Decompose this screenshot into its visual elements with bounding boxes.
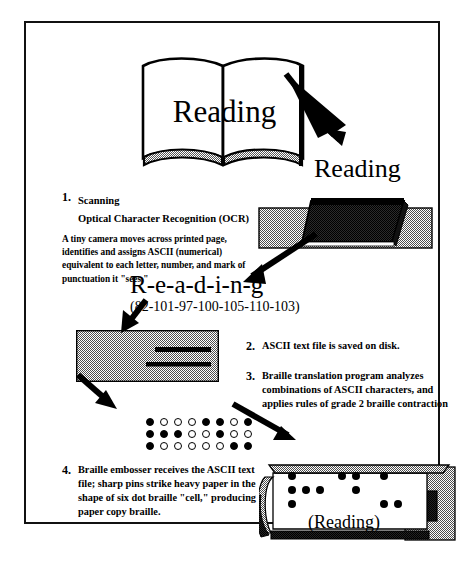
braille-dot-r2-c5 [202, 430, 210, 438]
braille-dot-r3-c5 [202, 442, 210, 450]
embosser-output-text: (Reading) [279, 512, 409, 533]
braille-dot-r1-c2 [160, 418, 168, 426]
braille-dot-r1-c7 [230, 418, 238, 426]
braille-dot-grid [143, 416, 255, 452]
open-book-illustration: Reading [139, 54, 310, 173]
braille-dot-r2-c6 [216, 430, 224, 438]
braille-dot-r1-c5 [202, 418, 210, 426]
braille-dot-r2-c8 [244, 430, 252, 438]
embosser-dot-9 [380, 472, 388, 480]
step-2-text: ASCII text file is saved on disk. [262, 339, 400, 353]
embosser-dot-11 [394, 500, 402, 508]
disk-illustration [76, 330, 219, 382]
embosser-braille-dots [288, 472, 408, 514]
embosser-dot-2 [288, 486, 296, 494]
step-4-text: Braille embosser receives the ASCII text… [78, 463, 258, 519]
braille-dot-r3-c2 [160, 442, 168, 450]
diagram-canvas: Reading Reading [0, 0, 463, 565]
book-page-text: Reading [139, 96, 310, 127]
embosser-dot-5 [288, 500, 296, 508]
step-2-number: 2. [246, 339, 262, 354]
step-1-number: 1. [62, 190, 78, 205]
braille-dot-r1-c1 [146, 418, 154, 426]
braille-dot-r3-c1 [146, 442, 154, 450]
embosser-dot-6 [338, 472, 346, 480]
scanned-word-text: Reading [314, 154, 401, 184]
scanner-illustration [258, 198, 433, 250]
embosser-dot-1 [288, 472, 296, 480]
braille-dot-r3-c6 [216, 442, 224, 450]
step-3: 3. Braille translation program analyzes … [246, 369, 456, 411]
braille-dot-r2-c7 [230, 430, 238, 438]
embosser-dot-10 [380, 500, 388, 508]
diagram-frame: Reading Reading [24, 21, 440, 524]
embosser-dot-3 [302, 486, 310, 494]
step-1-heading-line1: Scanning [78, 195, 119, 206]
braille-dot-r2-c2 [160, 430, 168, 438]
hyphenated-word-text: R-e-a-d-i-n-g [130, 271, 263, 299]
braille-dot-r1-c3 [174, 418, 182, 426]
braille-dot-r3-c3 [174, 442, 182, 450]
braille-dot-r1-c8 [244, 418, 252, 426]
braille-dot-r3-c4 [188, 442, 196, 450]
braille-dot-r3-c7 [230, 442, 238, 450]
embosser-dot-4 [316, 486, 324, 494]
step-3-text: Braille translation program analyzes com… [262, 369, 456, 411]
step-1-heading-line2: Optical Character Recognition (OCR) [78, 213, 249, 224]
embosser-dot-8 [352, 486, 360, 494]
braille-dot-r2-c1 [146, 430, 154, 438]
step-4: 4. Braille embosser receives the ASCII t… [62, 463, 258, 519]
embosser-dot-7 [352, 472, 360, 480]
step-2: 2. ASCII text file is saved on disk. [246, 339, 451, 354]
braille-dot-r2-c4 [188, 430, 196, 438]
step-4-number: 4. [62, 463, 78, 478]
braille-dot-r1-c6 [216, 418, 224, 426]
braille-dot-r3-c8 [244, 442, 252, 450]
braille-dot-r1-c4 [188, 418, 196, 426]
braille-dot-r2-c3 [174, 430, 182, 438]
step-3-number: 3. [246, 369, 262, 384]
ascii-codes-text: (82-101-97-100-105-110-103) [130, 299, 300, 315]
